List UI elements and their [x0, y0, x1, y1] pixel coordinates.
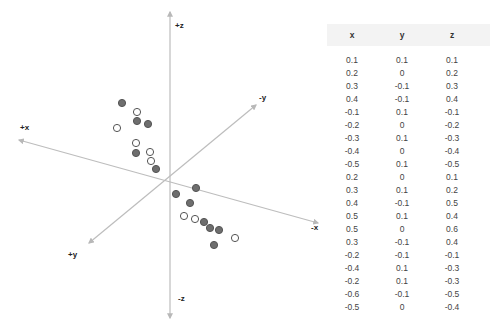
data-point-filled	[152, 165, 159, 172]
cell-z: -0.4	[427, 145, 477, 158]
cell-z: 0.1	[427, 54, 477, 67]
table-row: -0.50-0.4	[327, 301, 477, 314]
cell-y: -0.1	[377, 249, 427, 262]
data-point-hollow	[191, 215, 198, 222]
data-point-filled	[192, 184, 199, 191]
cell-z: -0.3	[427, 132, 477, 145]
data-point-hollow	[180, 212, 187, 219]
data-point-filled	[200, 218, 207, 225]
data-point-filled	[172, 190, 179, 197]
cell-y: -0.1	[377, 236, 427, 249]
cell-z: -0.3	[427, 262, 477, 275]
cell-z: -0.1	[427, 106, 477, 119]
cell-y: -0.1	[377, 80, 427, 93]
data-table-container: x y z 0.10.10.10.200.20.3-0.10.30.4-0.10…	[327, 24, 490, 314]
data-table: x y z 0.10.10.10.200.20.3-0.10.30.4-0.10…	[327, 24, 477, 314]
cell-y: 0.1	[377, 158, 427, 171]
column-header-z: z	[427, 24, 477, 46]
table-spacer	[327, 46, 477, 54]
cell-x: -0.2	[327, 119, 377, 132]
cell-x: 0.5	[327, 210, 377, 223]
cell-x: 0.3	[327, 80, 377, 93]
table-row: -0.40.1-0.3	[327, 262, 477, 275]
column-header-x: x	[327, 24, 377, 46]
cell-z: 0.5	[427, 197, 477, 210]
scatter-3d-plot: +z -z +x -x +y -y	[0, 0, 330, 327]
cell-x: -0.1	[327, 106, 377, 119]
cell-z: -0.1	[427, 249, 477, 262]
data-point-filled	[186, 199, 193, 206]
table-row: -0.30.1-0.3	[327, 132, 477, 145]
table-header-row: x y z	[327, 24, 477, 46]
table-row: -0.50.1-0.5	[327, 158, 477, 171]
cell-x: -0.5	[327, 301, 377, 314]
cell-x: -0.2	[327, 249, 377, 262]
y-neg-label: -y	[259, 93, 267, 102]
cell-z: 0.2	[427, 67, 477, 80]
cell-z: -0.5	[427, 158, 477, 171]
cell-y: 0	[377, 119, 427, 132]
table-row: -0.6-0.1-0.5	[327, 288, 477, 301]
cell-y: -0.1	[377, 288, 427, 301]
cell-y: 0	[377, 223, 427, 236]
cell-x: 0.2	[327, 171, 377, 184]
cell-y: 0.1	[377, 275, 427, 288]
cell-x: -0.6	[327, 288, 377, 301]
table-body: 0.10.10.10.200.20.3-0.10.30.4-0.10.4-0.1…	[327, 46, 477, 314]
cell-y: -0.1	[377, 197, 427, 210]
cell-z: 0.2	[427, 184, 477, 197]
y-pos-label: +y	[68, 250, 78, 259]
cell-x: -0.5	[327, 158, 377, 171]
cell-y: 0.1	[377, 184, 427, 197]
table-row: 0.4-0.10.4	[327, 93, 477, 106]
cell-x: 0.3	[327, 184, 377, 197]
cell-y: 0	[377, 145, 427, 158]
cell-x: -0.3	[327, 132, 377, 145]
cell-z: 0.4	[427, 210, 477, 223]
x-pos-label: +x	[20, 123, 30, 132]
data-point-filled	[132, 149, 139, 156]
data-point-hollow	[231, 234, 238, 241]
cell-y: 0.1	[377, 262, 427, 275]
table-row: 0.30.10.2	[327, 184, 477, 197]
x-axis	[19, 140, 318, 223]
table-row: 0.4-0.10.5	[327, 197, 477, 210]
cell-y: 0	[377, 67, 427, 80]
table-row: -0.2-0.1-0.1	[327, 249, 477, 262]
cell-z: -0.4	[427, 301, 477, 314]
cell-x: -0.4	[327, 262, 377, 275]
table-row: 0.200.2	[327, 67, 477, 80]
cell-z: -0.2	[427, 119, 477, 132]
table-row: -0.20.1-0.3	[327, 275, 477, 288]
cell-z: 0.4	[427, 236, 477, 249]
cell-y: 0.1	[377, 132, 427, 145]
data-point-filled	[210, 241, 217, 248]
cell-x: 0.4	[327, 93, 377, 106]
table-row: -0.40-0.4	[327, 145, 477, 158]
data-point-filled	[118, 99, 125, 106]
cell-z: 0.4	[427, 93, 477, 106]
table-row: 0.50.10.4	[327, 210, 477, 223]
data-point-hollow	[146, 148, 153, 155]
cell-y: 0.1	[377, 106, 427, 119]
data-point-hollow	[147, 157, 154, 164]
cell-x: 0.4	[327, 197, 377, 210]
data-point-hollow	[132, 139, 139, 146]
cell-z: -0.5	[427, 288, 477, 301]
table-row: 0.200.1	[327, 171, 477, 184]
cell-y: 0	[377, 301, 427, 314]
table-row: 0.3-0.10.3	[327, 80, 477, 93]
table-row: 0.3-0.10.4	[327, 236, 477, 249]
cell-x: 0.5	[327, 223, 377, 236]
cell-y: 0	[377, 171, 427, 184]
table-row: -0.20-0.2	[327, 119, 477, 132]
cell-x: 0.3	[327, 236, 377, 249]
table-row: 0.500.6	[327, 223, 477, 236]
cell-x: 0.2	[327, 67, 377, 80]
cell-x: -0.2	[327, 275, 377, 288]
cell-y: -0.1	[377, 93, 427, 106]
x-neg-label: -x	[311, 223, 319, 232]
data-points	[113, 99, 238, 248]
table-row: -0.10.1-0.1	[327, 106, 477, 119]
cell-z: 0.6	[427, 223, 477, 236]
